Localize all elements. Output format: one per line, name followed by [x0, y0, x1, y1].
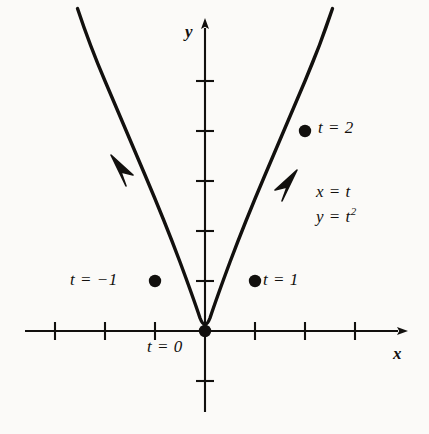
point-label-t-minus-one: t = −1	[70, 270, 118, 290]
point-t-minus-1[interactable]	[149, 275, 161, 287]
equation-y-of-t-base: y = t	[316, 207, 351, 226]
point-t-one[interactable]	[249, 275, 261, 287]
x-axis-label: x	[393, 344, 402, 364]
point-label-t-two: t = 2	[318, 118, 354, 138]
point-label-t-one: t = 1	[263, 270, 299, 290]
point-label-t-zero: t = 0	[147, 337, 183, 357]
y-axis	[196, 28, 214, 412]
equation-x-of-t: x = t	[316, 182, 351, 202]
equation-y-of-t: y = t2	[316, 205, 357, 227]
parametric-curve-figure: y x t = 2 t = −1 t = 1 t = 0 x = t y = t…	[0, 0, 429, 434]
left-branch-direction-arrow	[111, 155, 133, 186]
point-t-two[interactable]	[299, 125, 311, 137]
right-branch-direction-arrow	[275, 170, 297, 201]
plot-canvas	[0, 0, 429, 434]
point-t-zero[interactable]	[199, 325, 211, 337]
y-axis-label: y	[185, 22, 193, 42]
x-axis	[25, 322, 398, 340]
equation-y-exponent: 2	[351, 205, 357, 217]
